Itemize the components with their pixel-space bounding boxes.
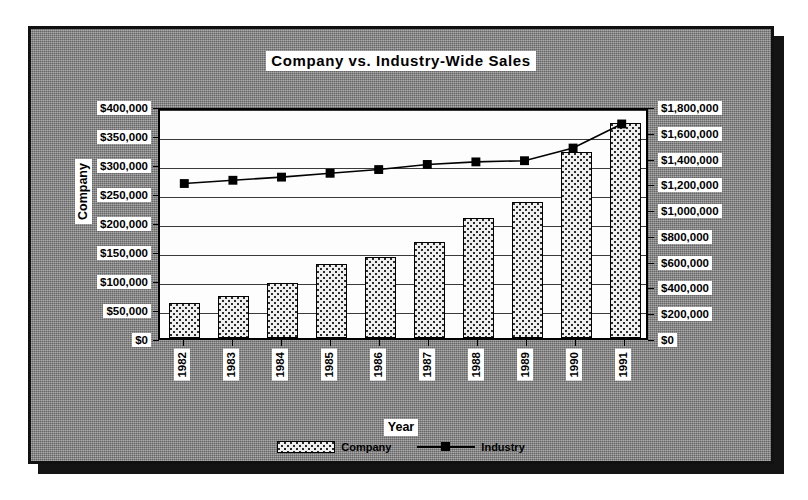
line-marker <box>569 144 578 153</box>
secondary-y-axis-tick-mark <box>648 340 654 341</box>
secondary-y-axis-tick-mark <box>648 237 654 238</box>
secondary-y-axis-tick-label: $1,600,000 <box>658 127 722 141</box>
x-axis-tick-label: 1989 <box>517 349 533 381</box>
secondary-y-axis-tick-mark <box>648 185 654 186</box>
secondary-y-axis-tick-mark <box>648 134 654 135</box>
x-axis-title-text: Year <box>384 419 418 436</box>
x-axis-tick-label: 1986 <box>370 349 386 381</box>
legend-label: Industry <box>481 441 524 453</box>
secondary-y-axis-tick-label: $1,000,000 <box>658 204 722 218</box>
chart-title-text: Company vs. Industry-Wide Sales <box>266 51 535 71</box>
line-marker <box>180 179 189 188</box>
secondary-y-axis-tick-mark <box>648 160 654 161</box>
line-marker <box>374 165 383 174</box>
y-axis-tick-label: $100,000 <box>31 276 151 288</box>
x-axis-tick-label: 1991 <box>615 349 631 381</box>
plot-area <box>158 108 648 340</box>
line-marker <box>617 120 626 129</box>
x-axis-tick-mark <box>281 340 282 346</box>
x-axis-tick-mark <box>183 340 184 346</box>
line-series-industry <box>160 110 646 338</box>
x-axis-tick-label: 1987 <box>419 349 435 381</box>
chart-title: Company vs. Industry-Wide Sales <box>31 51 771 71</box>
line-marker <box>520 156 529 165</box>
y-axis-tick-label: $150,000 <box>31 247 151 259</box>
y-axis-tick-mark <box>153 340 159 341</box>
x-axis-tick-mark <box>477 340 478 346</box>
secondary-y-axis-tick-mark <box>648 263 654 264</box>
x-axis-tick-label: 1990 <box>566 349 582 381</box>
x-axis-tick-mark <box>526 340 527 346</box>
x-axis-tick-label: 1985 <box>321 349 337 381</box>
y-axis-tick-label: $50,000 <box>31 305 151 317</box>
x-axis-tick-label: 1983 <box>223 349 239 381</box>
x-axis-title: Year <box>31 417 771 436</box>
legend-item: Company <box>277 441 391 453</box>
chart-legend: CompanyIndustry <box>31 441 771 453</box>
secondary-y-axis-tick-label: $1,200,000 <box>658 178 722 192</box>
line-marker <box>423 160 432 169</box>
x-axis-tick-mark <box>575 340 576 346</box>
x-axis-tick-mark <box>330 340 331 346</box>
secondary-y-axis-tick-mark <box>648 314 654 315</box>
secondary-y-axis-tick-mark <box>648 288 654 289</box>
secondary-y-axis-tick-label: $600,000 <box>658 256 712 270</box>
line-marker <box>277 173 286 182</box>
chart-frame: Company vs. Industry-Wide Sales Company … <box>28 26 774 464</box>
y-axis-tick-label: $350,000 <box>31 131 151 143</box>
chart-screenshot: Company vs. Industry-Wide Sales Company … <box>0 0 808 500</box>
secondary-y-axis-tick-mark <box>648 108 654 109</box>
legend-line-industry <box>417 441 475 453</box>
line-marker <box>326 169 335 178</box>
line-marker <box>471 157 480 166</box>
x-axis-tick-label: 1982 <box>174 349 190 381</box>
secondary-y-axis-tick-label: $1,400,000 <box>658 153 722 167</box>
x-axis-tick-label: 1984 <box>272 349 288 381</box>
secondary-y-axis-tick-label: $0 <box>658 333 677 347</box>
x-axis-tick-label: 1988 <box>468 349 484 381</box>
secondary-y-axis-tick-label: $200,000 <box>658 307 712 321</box>
x-axis-tick-mark <box>428 340 429 346</box>
line-marker <box>228 176 237 185</box>
legend-label: Company <box>341 441 391 453</box>
legend-item: Industry <box>417 441 524 453</box>
x-axis-tick-mark <box>624 340 625 346</box>
y-axis-tick-label: $0 <box>31 334 151 346</box>
secondary-y-axis-tick-label: $400,000 <box>658 281 712 295</box>
secondary-y-axis-tick-label: $800,000 <box>658 230 712 244</box>
industry-line-svg <box>160 110 646 338</box>
y-axis-tick-label: $250,000 <box>31 189 151 201</box>
y-axis-tick-label: $200,000 <box>31 218 151 230</box>
x-axis-tick-mark <box>379 340 380 346</box>
legend-swatch-company <box>277 441 335 453</box>
x-axis-tick-mark <box>232 340 233 346</box>
secondary-y-axis-tick-label: $1,800,000 <box>658 101 722 115</box>
y-axis-tick-label: $400,000 <box>31 102 151 114</box>
secondary-y-axis-tick-mark <box>648 211 654 212</box>
y-axis-tick-label: $300,000 <box>31 160 151 172</box>
